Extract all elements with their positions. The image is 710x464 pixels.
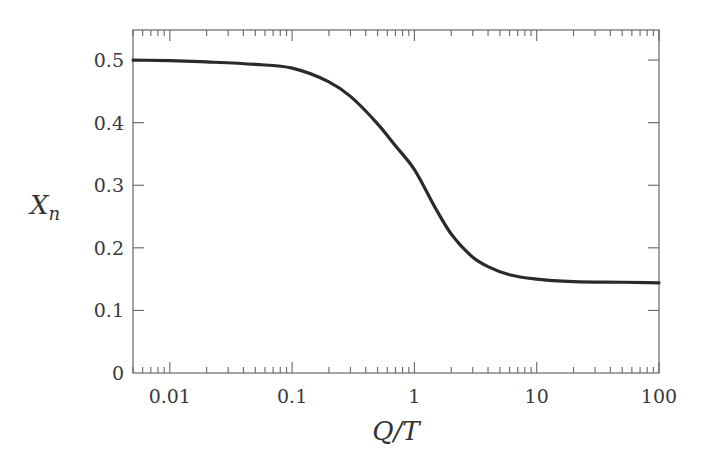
data-curve bbox=[133, 60, 659, 283]
y-tick-label: 0.2 bbox=[94, 237, 124, 259]
plot-frame bbox=[133, 30, 659, 373]
y-tick-label: 0.3 bbox=[94, 174, 124, 196]
y-tick-label: 0 bbox=[112, 362, 124, 384]
major-ticks bbox=[133, 30, 659, 373]
y-axis-label: Xn bbox=[28, 190, 60, 224]
x-axis-label: Q/T bbox=[372, 416, 421, 446]
y-tick-labels: 00.10.20.30.40.5 bbox=[94, 49, 124, 384]
x-tick-labels: 0.010.1110100 bbox=[149, 385, 677, 407]
x-tick-label: 100 bbox=[641, 385, 677, 407]
chart: 0.010.1110100 00.10.20.30.40.5 Q/T Xn bbox=[0, 0, 710, 464]
x-tick-label: 0.1 bbox=[277, 385, 307, 407]
minor-ticks bbox=[133, 30, 653, 373]
x-tick-label: 0.01 bbox=[149, 385, 191, 407]
y-tick-label: 0.5 bbox=[94, 49, 124, 71]
y-tick-label: 0.1 bbox=[94, 299, 124, 321]
y-axis-label-main: X bbox=[28, 190, 50, 220]
y-axis-label-subscript: n bbox=[49, 203, 61, 224]
x-tick-label: 10 bbox=[525, 385, 549, 407]
x-tick-label: 1 bbox=[408, 385, 420, 407]
y-tick-label: 0.4 bbox=[94, 112, 124, 134]
